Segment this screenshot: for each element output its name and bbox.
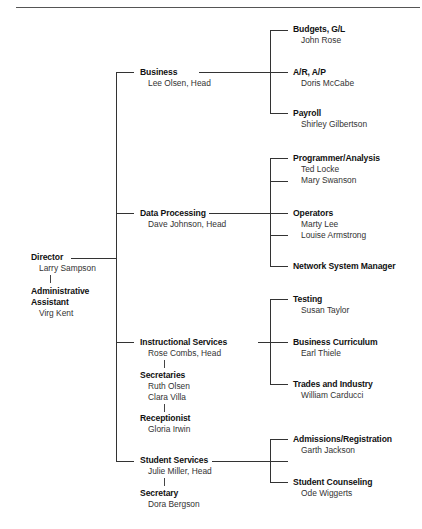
staff-title: Secretaries (140, 370, 190, 381)
director-person: Larry Sampson (31, 263, 96, 274)
unit-title: A/R, A/P (293, 67, 354, 78)
ss-branch (116, 461, 134, 462)
staff-title: Receptionist (140, 413, 190, 424)
dp-branch (116, 213, 134, 214)
unit-business-curriculum: Business Curriculum Earl Thiele (293, 337, 378, 359)
unit-title: Student Counseling (293, 477, 372, 488)
staff-person: Dora Bergson (140, 499, 200, 510)
ss-staff-link (164, 478, 165, 486)
bracket-tick (270, 266, 288, 267)
staff-secretary: Secretary Dora Bergson (140, 488, 200, 510)
bracket-tick (270, 113, 288, 114)
unit-network-system-manager: Network System Manager (293, 261, 395, 272)
unit-title: Business Curriculum (293, 337, 378, 348)
unit-trades-and-industry: Trades and Industry William Carducci (293, 379, 373, 401)
dept-student-services: Student Services Julie Miller, Head (140, 455, 212, 477)
unit-title: Programmer/Analysis (293, 153, 380, 164)
unit-person: William Carducci (293, 390, 373, 401)
assistant-person: Virg Kent (31, 308, 89, 319)
unit-person: Mary Swanson (293, 175, 380, 186)
unit-person: Ode Wiggerts (293, 488, 372, 499)
unit-ar-ap: A/R, A/P Doris McCabe (293, 67, 354, 89)
bracket-tick (270, 72, 288, 73)
unit-person: John Rose (293, 35, 345, 46)
unit-title: Network System Manager (293, 261, 395, 272)
unit-person: Susan Taylor (293, 305, 349, 316)
director-assistant-link (50, 275, 51, 283)
dept-head: Dave Johnson, Head (140, 219, 226, 230)
dept-data-processing: Data Processing Dave Johnson, Head (140, 208, 226, 230)
unit-person: Louise Armstrong (293, 230, 366, 241)
staff-title: Secretary (140, 488, 200, 499)
unit-person: Ted Locke (293, 164, 380, 175)
unit-person: Doris McCabe (293, 78, 354, 89)
unit-title: Budgets, G/L (293, 24, 345, 35)
unit-person: Shirley Gilbertson (293, 119, 367, 130)
unit-person: Earl Thiele (293, 348, 378, 359)
unit-title: Admissions/Registration (293, 434, 392, 445)
staff-person: Gloria Irwin (140, 424, 190, 435)
bracket-tick (270, 299, 288, 300)
ss-bracket (270, 439, 271, 483)
header-rule (16, 7, 420, 8)
assistant-title-1: Administrative (31, 286, 89, 297)
is-branch (116, 342, 134, 343)
unit-admissions-registration: Admissions/Registration Garth Jackson (293, 434, 392, 456)
bracket-tick (270, 181, 288, 182)
secretaries-receptionist-link (164, 404, 165, 412)
director-node: Director Larry Sampson (31, 252, 96, 274)
business-to-units (199, 72, 271, 73)
dept-head: Lee Olsen, Head (140, 78, 211, 89)
unit-testing: Testing Susan Taylor (293, 294, 349, 316)
bracket-tick (270, 30, 288, 31)
dept-instructional-services: Instructional Services Rose Combs, Head (140, 337, 227, 359)
unit-person: Garth Jackson (293, 445, 392, 456)
unit-title: Operators (293, 208, 366, 219)
unit-programmer-analysis: Programmer/Analysis Ted Locke Mary Swans… (293, 153, 380, 186)
unit-title: Payroll (293, 108, 367, 119)
staff-receptionist: Receptionist Gloria Irwin (140, 413, 190, 435)
dept-title: Student Services (140, 455, 212, 466)
bracket-tick (270, 384, 288, 385)
business-branch (116, 72, 134, 73)
ss-to-units (212, 461, 288, 462)
staff-secretaries: Secretaries Ruth Olsen Clara Villa (140, 370, 190, 403)
bracket-tick (270, 235, 288, 236)
director-title: Director (31, 252, 96, 263)
dept-head: Rose Combs, Head (140, 348, 227, 359)
bracket-tick (270, 439, 288, 440)
staff-person: Ruth Olsen (140, 381, 190, 392)
staff-person: Clara Villa (140, 392, 190, 403)
dept-head: Julie Miller, Head (140, 466, 212, 477)
dept-business: Business Lee Olsen, Head (140, 67, 211, 89)
unit-title: Testing (293, 294, 349, 305)
unit-title: Trades and Industry (293, 379, 373, 390)
assistant-node: Administrative Assistant Virg Kent (31, 286, 89, 319)
main-bus-line (116, 72, 117, 461)
bracket-tick (270, 342, 288, 343)
unit-operators: Operators Marty Lee Louise Armstrong (293, 208, 366, 241)
unit-person: Marty Lee (293, 219, 366, 230)
dept-title: Instructional Services (140, 337, 227, 348)
unit-student-counseling: Student Counseling Ode Wiggerts (293, 477, 372, 499)
bracket-tick (270, 158, 288, 159)
bracket-tick (270, 213, 288, 214)
unit-payroll: Payroll Shirley Gilbertson (293, 108, 367, 130)
bracket-tick (270, 482, 288, 483)
dp-to-units (209, 213, 271, 214)
is-staff-link (164, 360, 165, 368)
assistant-title-2: Assistant (31, 297, 89, 308)
unit-budgets: Budgets, G/L John Rose (293, 24, 345, 46)
